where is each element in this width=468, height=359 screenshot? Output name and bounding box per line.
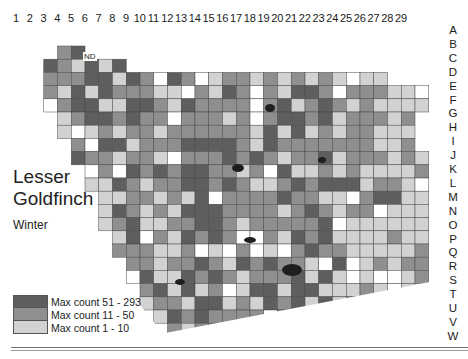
row-label: L xyxy=(447,177,459,189)
grid-cell xyxy=(319,178,333,191)
grid-cell xyxy=(113,204,127,217)
grid-cell xyxy=(99,99,113,112)
grid-cell xyxy=(181,284,195,297)
grid-cell xyxy=(99,178,113,191)
grid-cell xyxy=(168,191,182,204)
species-title: Lesser Goldfinch xyxy=(13,166,93,210)
grid-cell xyxy=(278,125,292,138)
grid-cell xyxy=(181,297,195,310)
grid-cell xyxy=(305,72,319,85)
grid-cell xyxy=(346,86,360,99)
grid-cell xyxy=(415,218,429,231)
grid-cell xyxy=(388,178,402,191)
column-label: 1 xyxy=(9,12,23,24)
grid-cell xyxy=(250,152,264,165)
grid-cell xyxy=(85,59,99,72)
grid-cell xyxy=(126,138,140,151)
row-label: U xyxy=(447,302,459,314)
grid-cell xyxy=(236,257,250,270)
grid-cell xyxy=(58,72,72,85)
grid-cell xyxy=(209,204,223,217)
grid-cell xyxy=(291,218,305,231)
grid-cell xyxy=(71,125,85,138)
grid-cell xyxy=(319,231,333,244)
grid-cell xyxy=(250,178,264,191)
grid-cell xyxy=(360,191,374,204)
grid-cell xyxy=(154,125,168,138)
grid-cell xyxy=(291,86,305,99)
grid-cell xyxy=(126,152,140,165)
grid-cell xyxy=(168,72,182,85)
grid-cell xyxy=(236,244,250,257)
grid-cell xyxy=(291,244,305,257)
grid-cell xyxy=(250,99,264,112)
grid-cell xyxy=(401,204,415,217)
grid-cell xyxy=(113,191,127,204)
grid-cell xyxy=(333,138,347,151)
grid-cell xyxy=(388,165,402,178)
grid-cell xyxy=(236,284,250,297)
grid-cell xyxy=(333,257,347,270)
grid-cell xyxy=(71,59,85,72)
grid-cell xyxy=(401,152,415,165)
row-label: N xyxy=(447,205,459,217)
column-label: 19 xyxy=(257,12,271,24)
grid-cell xyxy=(154,310,168,323)
grid-cell xyxy=(99,86,113,99)
grid-cell xyxy=(388,191,402,204)
column-label: 2 xyxy=(23,12,37,24)
grid-cell xyxy=(360,257,374,270)
grid-cell xyxy=(333,284,347,297)
grid-cell xyxy=(168,244,182,257)
lake-icon xyxy=(232,164,244,172)
grid-cell xyxy=(278,152,292,165)
grid-cell xyxy=(140,165,154,178)
grid-cell xyxy=(195,218,209,231)
grid-cell xyxy=(319,284,333,297)
grid-cell xyxy=(401,125,415,138)
grid-cell xyxy=(264,125,278,138)
grid-cell xyxy=(58,59,72,72)
grid-cell xyxy=(374,257,388,270)
column-label: 26 xyxy=(353,12,367,24)
grid-cell xyxy=(209,191,223,204)
column-label: 21 xyxy=(284,12,298,24)
grid-cell xyxy=(154,204,168,217)
grid-cell xyxy=(346,204,360,217)
grid-cell xyxy=(99,218,113,231)
grid-cell xyxy=(333,191,347,204)
grid-cell xyxy=(126,270,140,283)
grid-cell xyxy=(71,99,85,112)
legend-swatch-mid xyxy=(13,308,48,321)
grid-cell xyxy=(333,72,347,85)
grid-cell xyxy=(250,86,264,99)
grid-cell xyxy=(209,297,223,310)
grid-cell xyxy=(113,244,127,257)
grid-cell xyxy=(346,270,360,283)
grid-cell xyxy=(195,138,209,151)
grid-cell xyxy=(154,72,168,85)
grid-cell xyxy=(374,218,388,231)
grid-cell xyxy=(113,99,127,112)
grid-cell xyxy=(154,112,168,125)
grid-cell xyxy=(415,270,429,283)
grid-cell xyxy=(168,204,182,217)
grid-cell xyxy=(126,112,140,125)
grid-cell xyxy=(360,178,374,191)
grid-cell xyxy=(305,270,319,283)
grid-cell xyxy=(278,297,292,310)
grid-cell xyxy=(154,218,168,231)
grid-cell xyxy=(415,204,429,217)
grid-cell xyxy=(126,257,140,270)
grid-cell xyxy=(236,191,250,204)
grid-cell xyxy=(195,204,209,217)
legend-item-high: Max count 51 - 293 xyxy=(13,295,141,308)
grid-cell xyxy=(360,112,374,125)
grid-cell xyxy=(415,152,429,165)
grid-cell xyxy=(168,152,182,165)
grid-cell xyxy=(58,112,72,125)
grid-cell xyxy=(126,191,140,204)
grid-cell xyxy=(126,99,140,112)
grid-cell xyxy=(140,218,154,231)
grid-cell xyxy=(236,138,250,151)
